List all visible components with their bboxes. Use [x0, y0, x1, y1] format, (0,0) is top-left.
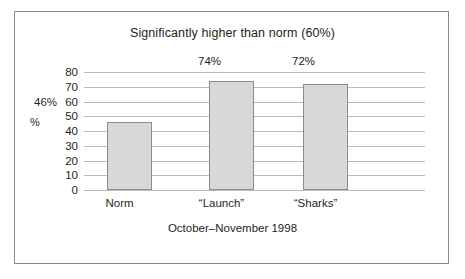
y-tick-label: 80	[48, 67, 78, 79]
y-tick-label: 0	[48, 185, 78, 197]
y-tick-label: 20	[48, 156, 78, 168]
bar-value-label: 46%	[15, 96, 76, 108]
y-tick-label: 10	[48, 170, 78, 182]
y-axis-label: %	[26, 116, 44, 128]
y-tick-label: 70	[48, 82, 78, 94]
category-label-launch: “Launch”	[171, 197, 272, 209]
gridline	[84, 116, 425, 117]
gridline	[84, 102, 425, 103]
plot-area	[84, 72, 425, 190]
bar-value-label: 74%	[179, 55, 240, 67]
y-axis-tick-labels: 80 70 60 50 40 30 20 10 0	[46, 72, 78, 190]
y-tick-label: 30	[48, 141, 78, 153]
gridline	[84, 72, 425, 73]
bar-sharks[interactable]	[303, 84, 348, 190]
bar-launch[interactable]	[209, 81, 254, 190]
category-label-norm: Norm	[69, 197, 170, 209]
category-label-sharks: “Sharks”	[265, 197, 366, 209]
chart-figure: Significantly higher than norm (60%) % 8…	[0, 0, 465, 279]
y-tick-label: 50	[48, 111, 78, 123]
bar-norm[interactable]	[107, 122, 152, 190]
chart-title: Significantly higher than norm (60%)	[0, 26, 465, 40]
x-axis-caption: October–November 1998	[0, 222, 465, 234]
gridline	[84, 87, 425, 88]
axis-baseline	[84, 190, 425, 191]
bar-value-label: 72%	[273, 55, 334, 67]
y-tick-label: 40	[48, 126, 78, 138]
